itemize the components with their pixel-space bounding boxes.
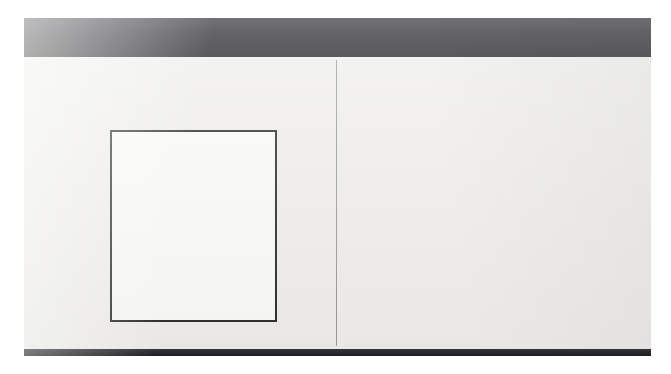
bottom-rule bbox=[24, 349, 651, 356]
infographic-page bbox=[0, 0, 671, 374]
bar-chart-panel bbox=[24, 57, 336, 349]
pie-chart-panel bbox=[337, 57, 651, 349]
bar-chart-plot-area bbox=[110, 130, 277, 322]
header-bar bbox=[24, 18, 651, 57]
pie-chart-title bbox=[337, 70, 651, 87]
infographic-panel bbox=[24, 18, 651, 356]
bar-chart-title bbox=[24, 70, 336, 87]
